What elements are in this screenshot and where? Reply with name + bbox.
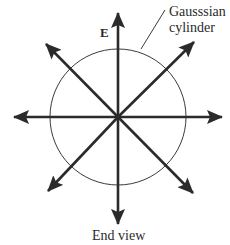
arrow-up-left (46, 44, 118, 117)
gaussian-label-line2: cylinder (169, 20, 226, 36)
center-point (116, 115, 121, 120)
arrow-down-left (48, 117, 118, 191)
gaussian-label-line1: Gausssian (169, 4, 226, 20)
electric-field-label: E (100, 26, 109, 39)
leader-line (141, 10, 165, 49)
gaussian-cylinder-label: Gausssian cylinder (169, 4, 226, 36)
end-view-diagram (0, 0, 230, 245)
end-view-caption: End view (92, 229, 145, 243)
arrow-down-right (118, 117, 193, 193)
arrow-up-right (118, 42, 194, 117)
